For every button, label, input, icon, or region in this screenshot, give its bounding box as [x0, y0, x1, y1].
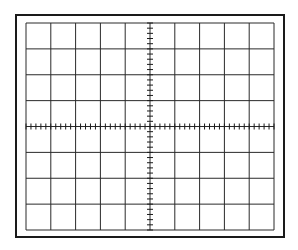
oscilloscope-graticule: [0, 0, 298, 250]
